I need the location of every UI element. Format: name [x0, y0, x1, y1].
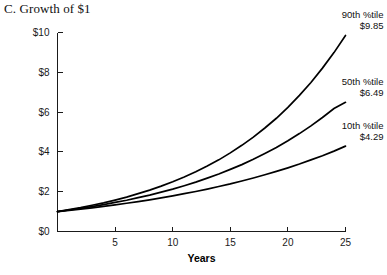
series-annotation-value: $4.29: [360, 131, 384, 142]
y-tick-label: $0: [38, 226, 50, 237]
x-axis-tick-labels: 510152025: [112, 237, 351, 248]
x-tick-label: 20: [282, 237, 294, 248]
series-curve: [58, 146, 346, 211]
x-tick-label: 10: [167, 237, 179, 248]
y-tick-label: $8: [38, 67, 50, 78]
growth-of-dollar-chart: $0$2$4$6$8$10 510152025 90th %tile$9.855…: [0, 0, 387, 275]
series-annotation-value: $9.85: [360, 20, 384, 31]
y-tick-label: $2: [38, 186, 50, 197]
x-tick-label: 5: [112, 237, 118, 248]
series-curve: [58, 102, 346, 211]
x-axis-title: Years: [187, 252, 215, 264]
series-annotation-name: 50th %tile: [342, 76, 384, 87]
y-axis-tick-labels: $0$2$4$6$8$10: [33, 27, 50, 237]
chart-figure: C. Growth of $1 $0$2$4$6$8$10 510152025 …: [0, 0, 387, 275]
y-tick-label: $4: [38, 146, 50, 157]
x-tick-label: 25: [340, 237, 352, 248]
series-curve: [58, 35, 346, 211]
series-annotations: 90th %tile$9.8550th %tile$6.4910th %tile…: [342, 9, 384, 142]
series-annotation-value: $6.49: [360, 87, 384, 98]
y-tick-label: $10: [33, 27, 50, 38]
x-tick-label: 15: [225, 237, 237, 248]
series-annotation-name: 10th %tile: [342, 120, 384, 131]
series-annotation-name: 90th %tile: [342, 9, 384, 20]
y-tick-label: $6: [38, 107, 50, 118]
series-curves: [58, 35, 346, 211]
